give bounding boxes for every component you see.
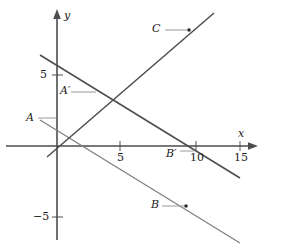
y-axis-label: y: [64, 10, 70, 21]
marker-dot-B: [184, 204, 188, 208]
y-axis-group: [52, 9, 63, 240]
x-axis-group: [6, 141, 258, 151]
y-axis-arrowhead: [53, 9, 61, 19]
x-axis-arrowhead: [248, 142, 258, 150]
line-label-C: C: [152, 23, 160, 34]
x-tick-label-5: 5: [117, 152, 124, 163]
marker-dot-C: [187, 28, 191, 32]
y-tick-label-neg5: −5: [33, 211, 49, 222]
line-C: [47, 13, 214, 157]
point-label-A: A: [26, 112, 34, 123]
x-tick-label-10: 10: [190, 152, 204, 163]
line-graph-figure: y x 5 −5 5 10 15 A A′ B′ C B: [0, 0, 286, 244]
x-axis-label: x: [238, 128, 244, 139]
line-B: [40, 120, 240, 243]
line-label-B: B: [151, 199, 159, 210]
x-tick-label-15: 15: [234, 152, 248, 163]
plot-canvas: [0, 0, 286, 244]
y-tick-label-5: 5: [40, 69, 47, 80]
point-label-B-prime: B′: [166, 148, 177, 159]
point-label-A-prime: A′: [60, 85, 70, 96]
line-A: [40, 55, 240, 178]
